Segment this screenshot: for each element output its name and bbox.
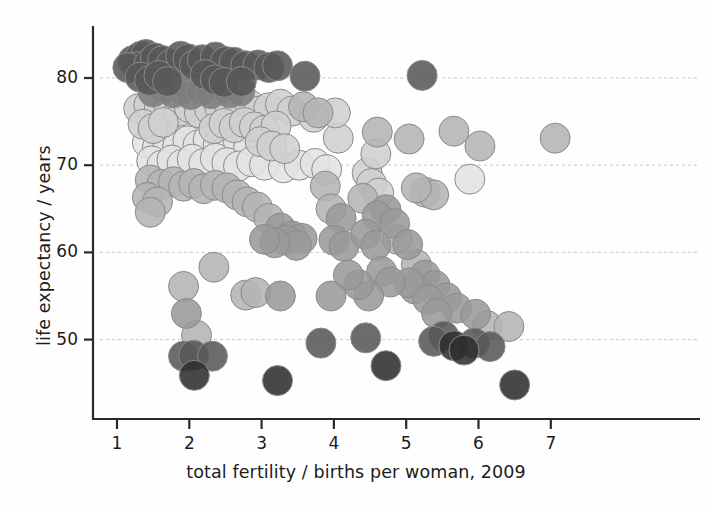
data-point xyxy=(290,61,320,91)
data-point xyxy=(362,117,392,147)
data-point xyxy=(316,281,346,311)
data-point xyxy=(371,351,401,381)
data-point xyxy=(500,370,530,400)
data-point xyxy=(265,281,295,311)
data-point xyxy=(351,323,381,353)
data-point xyxy=(148,107,178,137)
y-axis-title: life expectancy / years xyxy=(34,145,54,346)
data-point xyxy=(306,328,336,358)
data-point xyxy=(393,230,423,260)
x-tick-label-4: 4 xyxy=(319,433,349,453)
data-point xyxy=(135,197,165,227)
x-tick-label-7: 7 xyxy=(536,433,566,453)
scatter-plot-figure: 1234567 50607080 total fertility / birth… xyxy=(0,0,712,513)
data-points-group xyxy=(113,39,570,399)
data-point xyxy=(199,252,229,282)
data-point xyxy=(263,366,293,396)
data-point xyxy=(475,332,505,362)
data-point xyxy=(263,51,293,81)
x-tick-label-1: 1 xyxy=(102,433,132,453)
data-point xyxy=(270,134,300,164)
data-point xyxy=(179,360,209,390)
data-point xyxy=(303,98,333,128)
data-point xyxy=(439,116,469,146)
data-point xyxy=(465,131,495,161)
data-point xyxy=(394,124,424,154)
y-tick-label-80: 80 xyxy=(44,67,78,87)
data-point xyxy=(401,173,431,203)
data-point xyxy=(407,60,437,90)
data-point xyxy=(153,66,183,96)
data-point xyxy=(461,299,491,329)
data-point xyxy=(455,164,485,194)
data-point xyxy=(169,271,199,301)
data-point xyxy=(171,298,201,328)
data-point xyxy=(226,66,256,96)
x-tick-label-2: 2 xyxy=(174,433,204,453)
x-tick-label-3: 3 xyxy=(247,433,277,453)
x-axis-title: total fertility / births per woman, 2009 xyxy=(0,462,712,482)
data-point xyxy=(540,123,570,153)
data-point xyxy=(361,230,391,260)
data-point xyxy=(249,224,279,254)
x-tick-label-5: 5 xyxy=(391,433,421,453)
x-tick-label-6: 6 xyxy=(464,433,494,453)
data-point xyxy=(449,335,479,365)
